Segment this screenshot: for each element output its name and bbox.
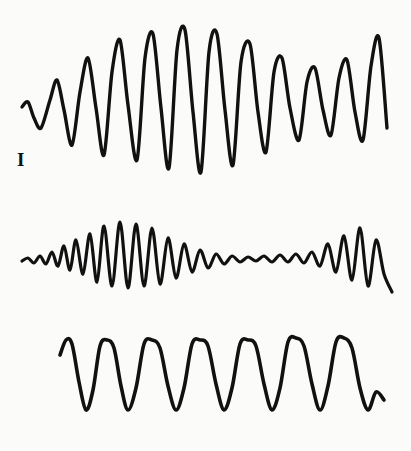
waveform-figure: I II III (0, 0, 411, 451)
trace-line-one (0, 0, 411, 200)
trace-block-one: I (0, 0, 411, 200)
trace-label-one: I (17, 150, 24, 169)
trace-line-two (0, 200, 411, 320)
trace-line-three (0, 320, 411, 451)
trace-block-three: III (0, 320, 411, 451)
trace-block-two: II (0, 200, 411, 320)
